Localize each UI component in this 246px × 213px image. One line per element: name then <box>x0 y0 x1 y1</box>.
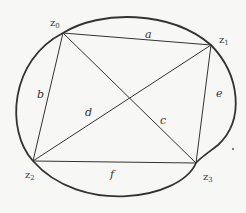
edge-label-e: e <box>216 87 223 100</box>
edge-label-b: b <box>37 88 44 101</box>
vertex-label-z0: z0 <box>50 17 60 30</box>
quadrilateral-diagram: abcdef z0z1z2z3 <box>0 0 246 213</box>
edge-label-c: c <box>160 114 166 127</box>
edge-e <box>196 45 211 163</box>
vertex-labels-group: z0z1z2z3 <box>25 17 229 184</box>
edge-label-d: d <box>85 106 92 119</box>
vertex-label-z3: z3 <box>203 171 213 184</box>
edge-f <box>33 161 196 163</box>
edge-label-a: a <box>145 28 152 41</box>
vertex-label-z2: z2 <box>25 169 35 182</box>
stray-dot <box>232 148 234 150</box>
vertex-label-z1: z1 <box>219 34 229 47</box>
edge-label-f: f <box>109 168 116 181</box>
edges-group <box>33 33 211 163</box>
edge-labels-group: abcdef <box>37 28 223 181</box>
edge-d <box>33 45 211 161</box>
edge-a <box>63 33 211 45</box>
